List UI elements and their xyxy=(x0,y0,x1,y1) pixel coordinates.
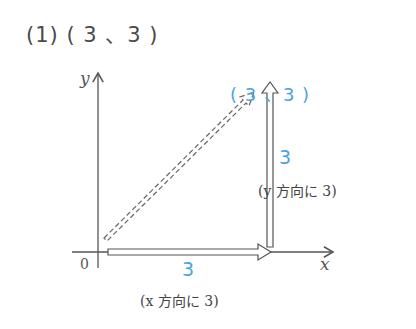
point-label: ( 3 、3 ) xyxy=(230,80,310,106)
x-move-note: (x 方向に 3) xyxy=(140,290,219,310)
y-move-note: (y 方向に 3) xyxy=(258,180,337,200)
coordinate-diagram xyxy=(0,0,416,329)
y-move-value: 3 xyxy=(279,146,291,168)
y-direction-arrow xyxy=(262,82,278,247)
x-axis-label: x xyxy=(320,254,330,274)
origin-label: 0 xyxy=(80,256,89,272)
diagonal-vector-arrow xyxy=(104,92,254,241)
y-axis-label: y xyxy=(80,68,90,88)
x-move-value: 3 xyxy=(182,258,194,280)
